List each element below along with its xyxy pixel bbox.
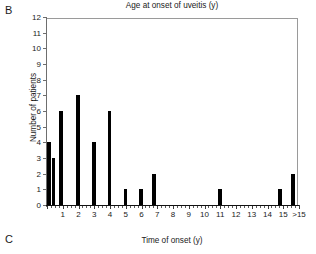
x-tick-mark-minor (59, 205, 60, 208)
x-tick-mark-minor (130, 205, 131, 208)
x-tick-mark-major (94, 205, 95, 209)
bar (52, 158, 55, 205)
y-tick-label: 11 (33, 28, 41, 37)
y-tick-label: 8 (37, 75, 41, 84)
x-tick-label: 14 (263, 210, 272, 219)
y-tick-mark (43, 33, 47, 34)
x-tick-label: 11 (216, 210, 224, 219)
plot-area: 0123456789101112 123456789101112131415>1… (46, 18, 298, 206)
x-tick-mark-minor (295, 205, 296, 208)
x-tick-mark-major (299, 205, 300, 209)
x-tick-mark-minor (279, 205, 280, 208)
x-tick-mark-minor (118, 205, 119, 208)
x-tick-mark-major (268, 205, 269, 209)
y-tick-label: 12 (32, 13, 41, 22)
x-tick-mark-minor (291, 205, 292, 208)
bar (218, 189, 221, 205)
y-tick-mark (43, 127, 47, 128)
x-tick-mark-minor (67, 205, 68, 208)
x-tick-mark-major (283, 205, 284, 209)
x-tick-mark-minor (149, 205, 150, 208)
x-tick-mark-minor (169, 205, 170, 208)
x-tick-mark-minor (216, 205, 217, 208)
x-tick-mark-major (205, 205, 206, 209)
x-tick-mark-minor (240, 205, 241, 208)
x-tick-mark-minor (208, 205, 209, 208)
x-tick-mark-major (189, 205, 190, 209)
x-tick-mark-minor (212, 205, 213, 208)
x-tick-mark-minor (228, 205, 229, 208)
x-tick-mark-minor (86, 205, 87, 208)
x-tick-label: 3 (92, 210, 96, 219)
bar (278, 189, 281, 205)
x-tick-mark-minor (193, 205, 194, 208)
x-tick-mark-minor (51, 205, 52, 208)
x-tick-mark-minor (181, 205, 182, 208)
x-tick-mark-minor (98, 205, 99, 208)
x-tick-mark-minor (260, 205, 261, 208)
x-tick-mark-major (110, 205, 111, 209)
y-tick-label: 0 (37, 201, 41, 210)
bar (76, 95, 79, 205)
y-tick-label: 1 (37, 185, 41, 194)
y-tick-label: 7 (37, 91, 41, 100)
x-tick-mark-minor (201, 205, 202, 208)
y-tick-mark (43, 111, 47, 112)
x-tick-mark-minor (177, 205, 178, 208)
x-tick-mark-minor (153, 205, 154, 208)
x-tick-mark-minor (197, 205, 198, 208)
x-tick-label: 9 (187, 210, 191, 219)
y-tick-label: 6 (37, 107, 41, 116)
figure-panel-b: B C Age at onset of uveitis (y) Number o… (0, 0, 316, 254)
x-tick-mark-major (47, 205, 48, 209)
x-tick-label: 12 (232, 210, 241, 219)
x-tick-mark-major (126, 205, 127, 209)
bar (291, 174, 294, 205)
x-tick-mark-major (63, 205, 64, 209)
y-tick-mark (43, 95, 47, 96)
x-tick-label: 15 (279, 210, 288, 219)
bar (92, 142, 95, 205)
x-axis-title: Time of onset (y) (46, 236, 298, 245)
y-tick-mark (43, 64, 47, 65)
x-tick-mark-major (220, 205, 221, 209)
x-tick-label: 13 (247, 210, 256, 219)
bar (139, 189, 142, 205)
y-tick-label: 4 (37, 138, 41, 147)
x-tick-label: 5 (124, 210, 128, 219)
bar (108, 111, 111, 205)
x-tick-mark-minor (134, 205, 135, 208)
x-tick-label: 7 (155, 210, 159, 219)
x-tick-mark-minor (248, 205, 249, 208)
chart-title: Age at onset of uveitis (y) (46, 1, 298, 10)
x-tick-mark-minor (138, 205, 139, 208)
x-tick-label: 10 (200, 210, 209, 219)
x-tick-mark-minor (161, 205, 162, 208)
y-tick-label: 10 (32, 44, 41, 53)
x-tick-mark-minor (244, 205, 245, 208)
x-tick-mark-minor (75, 205, 76, 208)
x-tick-label: 1 (61, 210, 65, 219)
x-tick-label: 2 (76, 210, 80, 219)
x-tick-mark-minor (232, 205, 233, 208)
y-tick-mark (43, 80, 47, 81)
x-tick-mark-minor (102, 205, 103, 208)
x-tick-mark-major (142, 205, 143, 209)
y-tick-mark (43, 48, 47, 49)
y-tick-label: 3 (37, 154, 41, 163)
y-tick-label: 9 (37, 60, 41, 69)
x-tick-mark-minor (55, 205, 56, 208)
panel-label-b: B (5, 4, 13, 16)
y-tick-mark (43, 17, 47, 18)
x-tick-mark-major (157, 205, 158, 209)
bar (152, 174, 155, 205)
x-tick-mark-minor (145, 205, 146, 208)
x-tick-mark-major (79, 205, 80, 209)
y-tick-mark (43, 205, 47, 206)
bar (124, 189, 127, 205)
x-tick-mark-minor (287, 205, 288, 208)
x-tick-mark-major (173, 205, 174, 209)
x-tick-mark-minor (256, 205, 257, 208)
x-tick-mark-major (252, 205, 253, 209)
bar (59, 111, 62, 205)
